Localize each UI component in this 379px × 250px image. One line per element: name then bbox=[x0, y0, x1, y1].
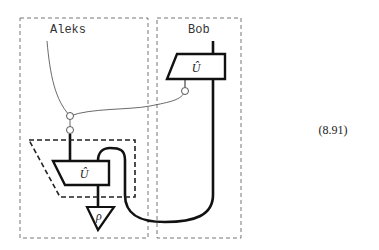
bob-region bbox=[157, 18, 241, 238]
aleks-label: Aleks bbox=[50, 23, 86, 37]
input-wire bbox=[47, 41, 70, 116]
bob-node bbox=[182, 88, 189, 95]
aleks-unitary-label: Û bbox=[80, 167, 90, 181]
cross-wire bbox=[70, 91, 185, 116]
bob-label: Bob bbox=[188, 23, 210, 37]
copy-node bbox=[67, 113, 74, 120]
loop-wire bbox=[98, 78, 213, 222]
rho-label: ρ bbox=[95, 209, 102, 223]
aleks-region bbox=[20, 18, 148, 238]
bob-unitary-label: Û bbox=[192, 61, 202, 75]
equation-number: (8.91) bbox=[319, 123, 348, 137]
mid-node bbox=[67, 127, 74, 134]
process-diagram: Aleks Bob Û Û ρ (8.91) bbox=[0, 0, 379, 250]
